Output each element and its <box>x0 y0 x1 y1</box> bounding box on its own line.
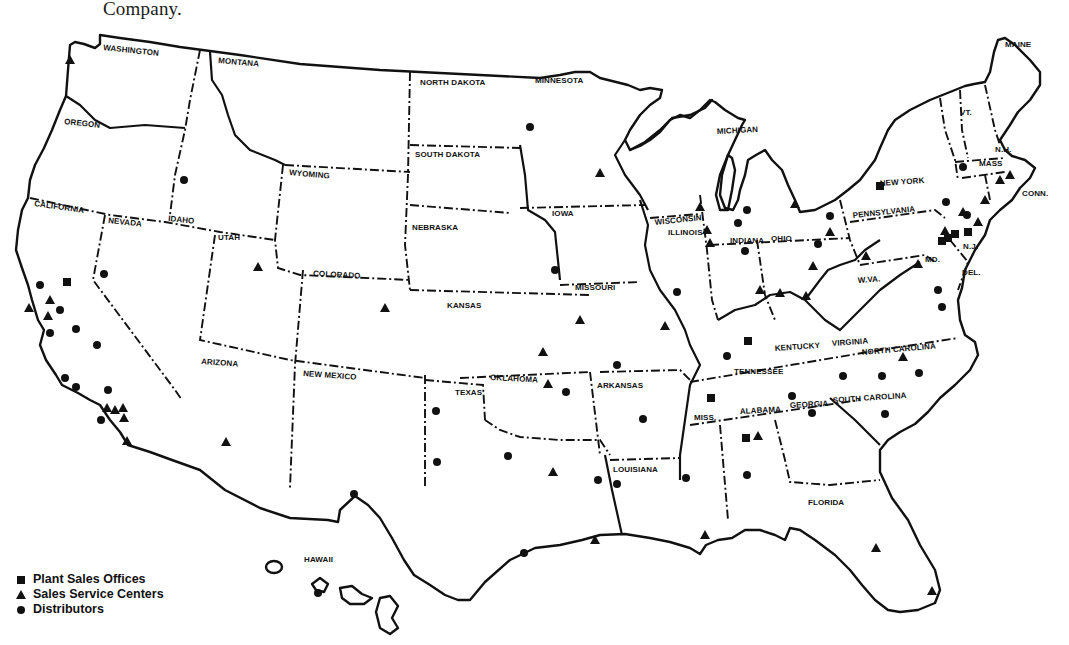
distributor-marker <box>56 306 64 314</box>
distributor-marker <box>613 361 621 369</box>
distributor-marker <box>100 270 108 278</box>
state-label: OHIO <box>771 234 792 243</box>
sales-service-center-marker <box>790 199 800 208</box>
state-label: ARIZONA <box>201 357 239 369</box>
state-label: WYOMING <box>289 168 330 181</box>
state-label: MISSOURI <box>575 283 615 292</box>
distributor-marker <box>46 329 54 337</box>
plant-sales-office-marker <box>964 228 972 236</box>
sales-service-center-marker <box>43 311 53 320</box>
sales-service-center-marker <box>65 55 75 64</box>
legend-label: Plant Sales Offices <box>33 572 146 587</box>
distributor-marker <box>963 211 971 219</box>
sales-service-center-marker <box>380 303 390 312</box>
sales-service-center-marker <box>102 403 112 412</box>
state-label: ALABAMA <box>740 405 782 416</box>
plant-sales-office-marker <box>742 434 750 442</box>
distributor-marker <box>72 383 80 391</box>
distributor-marker <box>938 303 946 311</box>
plant-sales-office-marker <box>944 234 952 242</box>
distributor-marker <box>520 549 528 557</box>
distributor-marker <box>741 247 749 255</box>
legend-item-distributors: Distributors <box>16 602 164 617</box>
distributor-marker <box>788 392 796 400</box>
distributor-marker <box>881 410 889 418</box>
sales-service-center-marker <box>221 437 231 446</box>
sales-service-center-marker <box>45 295 55 304</box>
state-label: WISCONSIN <box>654 213 702 227</box>
sales-service-center-marker <box>913 259 923 268</box>
sales-service-center-marker <box>119 413 129 422</box>
state-label: COLORADO <box>313 269 361 280</box>
legend-label: Sales Service Centers <box>33 587 164 602</box>
distributor-marker <box>734 219 742 227</box>
distributor-marker <box>639 415 647 423</box>
distributor-marker <box>808 409 816 417</box>
distributor-marker <box>594 476 602 484</box>
state-label: VIRGINIA <box>832 336 869 348</box>
state-label: TEXAS <box>455 388 483 397</box>
state-label: NORTH DAKOTA <box>420 78 486 87</box>
map-legend: Plant Sales Offices Sales Service Center… <box>16 572 164 617</box>
state-label: NEW MEXICO <box>303 369 357 382</box>
distributor-marker <box>682 474 690 482</box>
state-label: TENNESSEE <box>734 367 784 376</box>
state-label: MISS. <box>694 413 716 422</box>
distributor-marker <box>839 372 847 380</box>
sales-service-center-marker <box>808 261 818 270</box>
distributor-marker <box>350 490 358 498</box>
state-label: CONN. <box>1022 189 1048 198</box>
sales-service-center-marker <box>660 321 670 330</box>
distributor-marker <box>104 386 112 394</box>
state-label: DEL. <box>962 268 981 277</box>
distributor-marker <box>36 281 44 289</box>
state-label: LOUISIANA <box>613 465 658 474</box>
state-label: ARKANSAS <box>597 381 644 390</box>
triangle-icon <box>16 590 26 599</box>
sales-service-center-marker <box>1005 170 1015 179</box>
state-label: INDIANA <box>730 236 764 245</box>
sales-service-center-marker <box>973 217 983 226</box>
state-label: SOUTH DAKOTA <box>415 150 480 159</box>
legend-label: Distributors <box>33 602 104 617</box>
sales-service-center-marker <box>110 405 120 414</box>
state-label: N.H. <box>995 145 1011 154</box>
distributor-marker <box>673 288 681 296</box>
distributor-marker <box>97 416 105 424</box>
plant-sales-office-marker <box>951 230 959 238</box>
state-label: GEORGIA <box>790 399 829 410</box>
plant-sales-office-marker <box>744 337 752 345</box>
distributor-marker <box>93 341 101 349</box>
sales-service-center-marker <box>871 543 881 552</box>
sales-service-center-marker <box>253 262 263 271</box>
state-label: ILLINOIS <box>668 228 703 237</box>
distributor-marker <box>934 286 942 294</box>
sales-service-center-marker <box>575 315 585 324</box>
distributor-marker <box>814 240 822 248</box>
distributor-marker <box>72 325 80 333</box>
distributor-marker <box>432 407 440 415</box>
distributor-marker <box>613 480 621 488</box>
state-label: FLORIDA <box>808 498 844 507</box>
hawaii-islands <box>266 561 398 634</box>
state-label: MICHIGAN <box>717 125 759 136</box>
distributor-marker <box>723 352 731 360</box>
lake-michigan <box>716 155 735 210</box>
state-label: IOWA <box>552 209 574 218</box>
distributor-marker <box>180 176 188 184</box>
state-label: VT. <box>960 108 972 117</box>
square-icon <box>17 576 25 584</box>
sales-service-center-marker <box>700 530 710 539</box>
sales-service-center-marker <box>927 586 937 595</box>
lake-superior <box>630 100 712 150</box>
sales-service-center-marker <box>548 467 558 476</box>
state-label: SOUTH CAROLINA <box>833 391 907 405</box>
plant-sales-office-marker <box>63 278 71 286</box>
state-label: NEW YORK <box>880 176 925 188</box>
distributor-marker <box>959 163 967 171</box>
distributor-marker <box>526 123 534 131</box>
state-label: MD. <box>925 255 940 264</box>
distributor-marker <box>314 589 322 597</box>
location-markers <box>24 55 1015 597</box>
sales-service-center-marker <box>595 168 605 177</box>
